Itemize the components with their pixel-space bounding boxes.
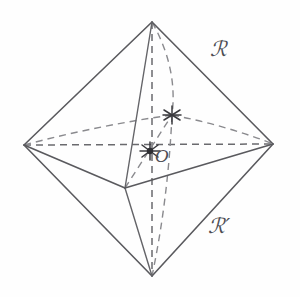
center-label-O: O [155,146,169,166]
diagonal-horizontal [24,144,273,145]
region-label-R: ℛ [210,37,228,61]
region-label-R-prime: ℛ′ [208,214,231,238]
edge-front-left [24,145,125,188]
edge-back-left [24,115,172,145]
back-vertex-marker [163,106,181,124]
octahedron-svg [0,0,300,297]
edge-top-back [152,22,173,115]
edge-bottom-right [152,144,273,276]
edge-top-front [125,22,152,188]
edge-bottom-back [152,115,172,276]
edge-bottom-left [24,145,152,276]
edge-top-left [24,22,152,145]
figure-root: ℛ ℛ′ O [0,0,300,297]
